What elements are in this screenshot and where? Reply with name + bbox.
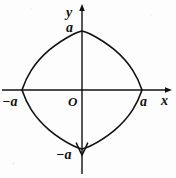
- y-axis-label: y: [66, 6, 72, 20]
- y-axis-tick-label-a: a: [66, 21, 73, 35]
- x-axis-label: x: [161, 94, 168, 108]
- y-axis-tick-label-negative-a: −a: [56, 148, 71, 162]
- origin-label: O: [68, 95, 77, 108]
- x-axis: [2, 87, 172, 93]
- plot-canvas: [0, 0, 176, 178]
- x-axis-tick-label-a: a: [140, 95, 147, 109]
- x-axis-tick-label-negative-a: −a: [2, 95, 17, 109]
- astroid-figure: y a x a −a −a O: [0, 0, 176, 178]
